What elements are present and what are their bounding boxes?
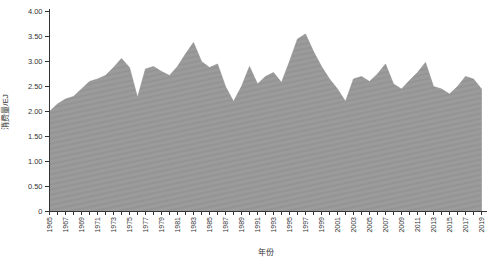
x-axis-title: 年份 xyxy=(258,247,274,257)
y-tick-label: 2.50 xyxy=(28,82,43,91)
x-tick-label: 1993 xyxy=(270,217,277,233)
x-tick-label: 1985 xyxy=(206,217,213,233)
y-tick-label: 3.00 xyxy=(28,57,43,66)
x-tick-label: 2009 xyxy=(398,217,405,233)
x-tick-label: 2001 xyxy=(334,217,341,233)
chart-figure: 00.501.001.502.002.503.003.504.001965196… xyxy=(0,0,494,265)
x-tick-label: 1991 xyxy=(254,217,261,233)
x-tick-label: 1999 xyxy=(318,217,325,233)
x-tick-label: 2007 xyxy=(382,217,389,233)
x-tick-label: 2019 xyxy=(478,217,485,233)
y-tick-label: 0 xyxy=(38,207,42,216)
x-tick-label: 1995 xyxy=(286,217,293,233)
x-tick-label: 1981 xyxy=(174,217,181,233)
y-tick-label: 0.50 xyxy=(28,182,43,191)
x-tick-label: 1975 xyxy=(126,217,133,233)
y-tick-label: 1.00 xyxy=(28,157,43,166)
x-tick-label: 1979 xyxy=(158,217,165,233)
x-tick-label: 2017 xyxy=(462,217,469,233)
y-tick-label: 3.50 xyxy=(28,32,43,41)
x-tick-label: 2013 xyxy=(430,217,437,233)
y-axis-title: 消费量/EJ xyxy=(0,94,10,130)
x-tick-label: 1987 xyxy=(222,217,229,233)
area-chart-svg: 00.501.001.502.002.503.003.504.001965196… xyxy=(0,0,494,265)
x-tick-label: 1989 xyxy=(238,217,245,233)
x-tick-label: 1969 xyxy=(78,217,85,233)
x-tick-label: 1967 xyxy=(62,217,69,233)
x-tick-label: 2005 xyxy=(366,217,373,233)
area-series-layer xyxy=(50,34,482,212)
y-tick-label: 2.00 xyxy=(28,107,43,116)
consumption-area xyxy=(50,34,482,212)
x-tick-label: 2011 xyxy=(414,217,421,232)
x-tick-label: 1977 xyxy=(142,217,149,233)
x-tick-label: 1983 xyxy=(190,217,197,233)
x-tick-label: 1973 xyxy=(110,217,117,233)
x-tick-label: 2003 xyxy=(350,217,357,233)
y-tick-label: 1.50 xyxy=(28,132,43,141)
x-tick-label: 1965 xyxy=(46,217,53,233)
x-tick-label: 1997 xyxy=(302,217,309,233)
y-tick-label: 4.00 xyxy=(28,7,43,16)
x-tick-label: 2015 xyxy=(446,217,453,233)
x-tick-label: 1971 xyxy=(94,217,101,233)
